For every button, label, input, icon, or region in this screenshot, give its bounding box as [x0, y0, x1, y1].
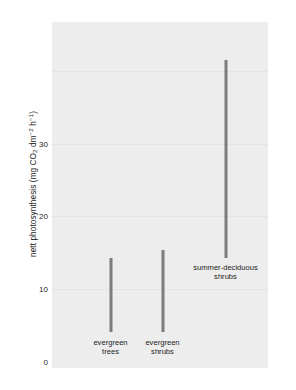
category-label-line1: evergreen — [145, 338, 179, 347]
gridline-30 — [52, 144, 268, 145]
gridline-20 — [52, 216, 268, 217]
category-label-line1: evergreen — [93, 338, 127, 347]
category-label-2: evergreenshrubs — [145, 338, 179, 356]
plot-area: summer-deciduousshrubs — [52, 22, 268, 368]
category-label-line2: shrubs — [145, 347, 179, 356]
range-bar-1 — [109, 258, 112, 332]
y-tick-label-10: 10 — [28, 285, 48, 294]
range-bar-3 — [224, 60, 227, 258]
y-tick-label-0: 0 — [28, 358, 48, 367]
gridline-10 — [52, 289, 268, 290]
series-label-line2: shrubs — [193, 272, 258, 281]
series-label-3: summer-deciduousshrubs — [193, 263, 258, 281]
series-label-line1: summer-deciduous — [193, 263, 258, 272]
y-axis-tick-labels: 0102030 — [28, 0, 48, 390]
category-label-line2: trees — [93, 347, 127, 356]
chart-figure: nett photosynthesis (mg CO2 dm−2 h−1) 01… — [0, 0, 296, 390]
y-tick-label-30: 30 — [28, 139, 48, 148]
range-bar-2 — [161, 250, 164, 332]
gridline-minor-40 — [52, 71, 268, 72]
category-label-1: evergreentrees — [93, 338, 127, 356]
y-tick-label-20: 20 — [28, 212, 48, 221]
